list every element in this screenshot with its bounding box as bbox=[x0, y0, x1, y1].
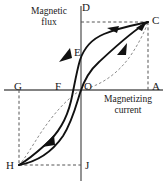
arrow-descending-middle bbox=[59, 48, 72, 62]
hysteresis-loop-figure: Magnetic flux Magnetizing current D C E … bbox=[0, 0, 166, 185]
y-axis-title-line1: Magnetic bbox=[31, 6, 67, 16]
x-axis-title: Magnetizing current bbox=[94, 94, 162, 116]
point-label-J: J bbox=[85, 160, 89, 171]
point-label-C: C bbox=[152, 15, 159, 26]
y-axis-title: Magnetic flux bbox=[20, 6, 78, 28]
y-axis-title-line2: flux bbox=[41, 17, 56, 27]
point-label-H: H bbox=[6, 160, 14, 171]
point-label-A: A bbox=[152, 81, 160, 92]
x-axis-title-line2: current bbox=[115, 105, 142, 115]
point-label-G: G bbox=[14, 81, 22, 92]
x-axis-title-line1: Magnetizing bbox=[104, 94, 152, 104]
arrow-descending-lower bbox=[42, 135, 55, 147]
point-label-O: O bbox=[84, 81, 92, 92]
point-label-D: D bbox=[82, 2, 90, 13]
point-label-F: F bbox=[55, 81, 61, 92]
point-label-E: E bbox=[74, 47, 81, 58]
